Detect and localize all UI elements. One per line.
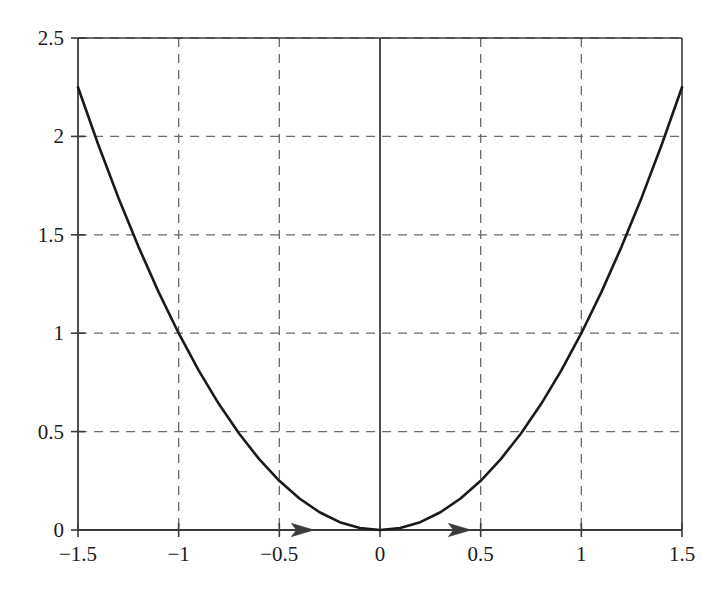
y-tick-label: 2.5 [0,28,64,49]
plot-canvas [0,0,728,592]
x-tick-label: 1.5 [669,544,695,565]
y-tick-label: 1.5 [0,224,64,245]
y-tick-label: 0 [0,520,64,541]
x-tick-label: 0.5 [468,544,494,565]
x-tick-label: −0.5 [260,544,298,565]
y-tick-label: 2 [0,126,64,147]
x-tick-label: −1 [167,544,189,565]
y-tick-label: 0.5 [0,421,64,442]
x-tick-label: 1 [576,544,587,565]
y-tick-label: 1 [0,323,64,344]
x-tick-label: 0 [375,544,386,565]
chart-figure: 00.511.522.5−1.5−1−0.500.511.5 [0,0,728,592]
x-tick-label: −1.5 [59,544,97,565]
